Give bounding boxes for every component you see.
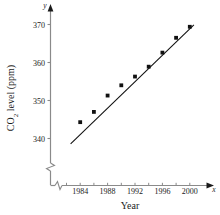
y-axis-break-mark: [47, 163, 55, 171]
y-tick-label: 370: [33, 21, 45, 30]
y-tick: 360: [33, 59, 51, 68]
x-tick-labels-group: 1984 1988 1992 1996 2000: [72, 187, 198, 196]
data-point: [161, 51, 165, 55]
y-tick: 340: [33, 135, 51, 144]
data-point: [119, 83, 123, 87]
chart-canvas: y 370 360 350 340: [0, 0, 220, 215]
data-point: [106, 94, 110, 98]
trend-line: [71, 25, 194, 144]
x-tick-label: 1988: [100, 187, 116, 196]
y-ticks-group: 370 360 350 340: [33, 21, 51, 144]
y-tick-label: 350: [33, 97, 45, 106]
x-tick-label: 1996: [154, 187, 170, 196]
y-tick: 350: [33, 97, 51, 106]
svg-text:CO2 level (ppm): CO2 level (ppm): [5, 65, 20, 131]
co2-chart-figure: y 370 360 350 340: [0, 0, 220, 215]
x-axis-break-mark: [55, 182, 62, 190]
y-axis-title-pre: CO: [5, 117, 16, 131]
x-tick-label: 2000: [182, 187, 198, 196]
y-tick: 370: [33, 21, 51, 30]
data-point: [133, 75, 137, 79]
x-axis-title: Year: [121, 200, 140, 211]
data-point: [174, 36, 178, 40]
x-tick-label: 1992: [127, 187, 143, 196]
y-tick-label: 360: [33, 59, 45, 68]
y-axis-name-label: y: [42, 1, 47, 10]
y-tick-label: 340: [33, 135, 45, 144]
data-point: [147, 65, 151, 69]
x-axis-name-label: x: [211, 185, 216, 194]
data-point: [188, 25, 192, 29]
y-axis-title-post: level (ppm): [5, 65, 17, 114]
y-axis-arrowhead: [48, 4, 54, 12]
x-tick-label: 1984: [72, 187, 88, 196]
data-point: [78, 120, 82, 124]
y-axis-title: CO2 level (ppm): [5, 65, 20, 131]
data-point-series: [78, 25, 191, 124]
data-point: [92, 110, 96, 114]
